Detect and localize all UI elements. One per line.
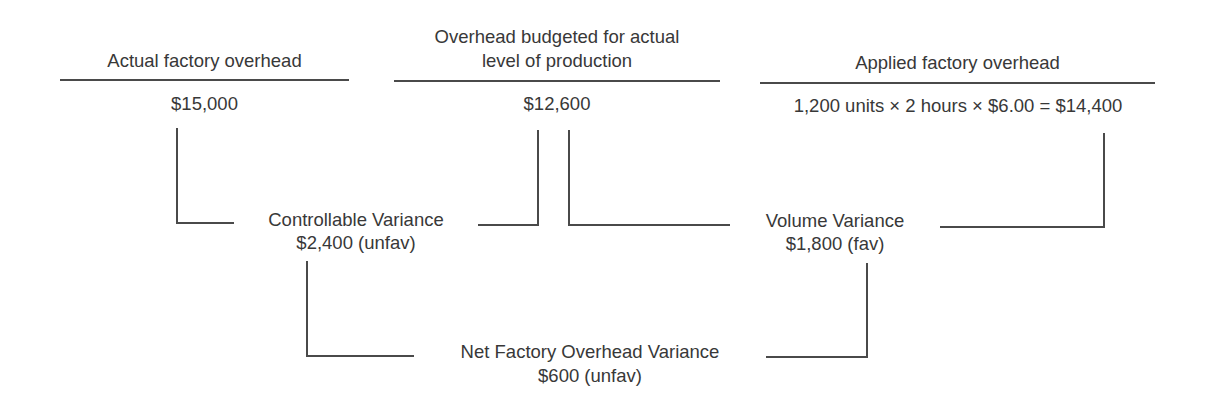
applied-overhead-rule (760, 82, 1155, 84)
controllable-left-arm (176, 222, 234, 224)
budgeted-overhead-header-line2: level of production (394, 50, 720, 72)
net-variance-label: Net Factory Overhead Variance (414, 341, 766, 363)
net-right-arm (766, 356, 868, 358)
controllable-variance-value: $2,400 (unfav) (234, 232, 478, 254)
controllable-right-arm (478, 224, 539, 226)
controllable-variance-label: Controllable Variance (234, 209, 478, 231)
actual-overhead-rule (60, 79, 349, 81)
volume-variance-value: $1,800 (fav) (730, 233, 940, 255)
applied-overhead-header: Applied factory overhead (760, 52, 1155, 74)
controllable-left-connector (176, 128, 178, 224)
net-variance-value: $600 (unfav) (414, 365, 766, 387)
volume-right-connector (1103, 133, 1105, 228)
volume-right-arm (940, 226, 1105, 228)
volume-variance-label: Volume Variance (730, 210, 940, 232)
controllable-right-connector (537, 130, 539, 226)
net-right-connector (866, 263, 868, 358)
actual-overhead-value: $15,000 (60, 93, 349, 115)
budgeted-overhead-rule (394, 80, 720, 82)
budgeted-overhead-header-line1: Overhead budgeted for actual (394, 26, 720, 48)
net-left-arm (306, 355, 414, 357)
net-left-connector (306, 261, 308, 357)
volume-left-connector (568, 130, 570, 226)
budgeted-overhead-value: $12,600 (394, 93, 720, 115)
actual-overhead-header: Actual factory overhead (60, 50, 349, 72)
applied-overhead-value: 1,200 units × 2 hours × $6.00 = $14,400 (748, 95, 1168, 117)
volume-left-arm (568, 224, 730, 226)
